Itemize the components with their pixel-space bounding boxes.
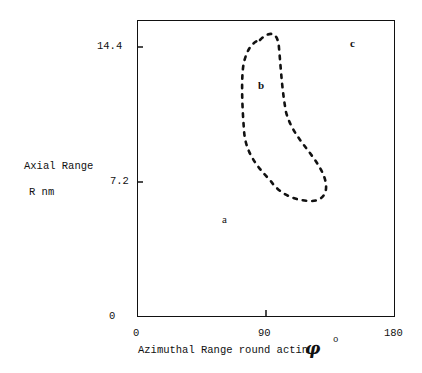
x-tick-label-180: 180: [384, 327, 403, 339]
region-label-a: a: [222, 213, 227, 225]
y-tick-label-0: 0: [109, 310, 115, 322]
region-label-b: b: [258, 79, 264, 91]
region-b-contour: [242, 34, 326, 201]
chart-overlay: [0, 0, 422, 373]
y-axis-title-line1: Axial Range: [24, 160, 93, 172]
degree-symbol: o: [333, 335, 338, 345]
region-label-c: c: [350, 37, 355, 49]
y-axis-title-line2: R nm: [29, 186, 54, 198]
x-axis-title: Azimuthal Range round actin: [138, 344, 308, 356]
phi-symbol: φ: [305, 338, 320, 358]
y-tick-label-7-2: 7.2: [110, 175, 129, 187]
y-tick-label-14-4: 14.4: [97, 40, 122, 52]
x-tick-label-90: 90: [258, 327, 271, 339]
x-tick-label-0: 0: [133, 327, 139, 339]
